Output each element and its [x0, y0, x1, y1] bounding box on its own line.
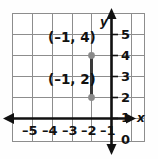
x-axis-name: x	[137, 112, 145, 124]
origin-label: 0	[121, 133, 130, 146]
y-tick-label-4: 4	[121, 49, 130, 62]
data-point-lower	[88, 94, 95, 101]
y-axis-name: y	[100, 16, 108, 28]
y-tick-label-3: 3	[121, 70, 130, 83]
annotation-point-upper: (–1, 4)	[48, 31, 96, 45]
data-point-upper	[88, 52, 95, 59]
x-axis-arrow-left	[3, 113, 14, 124]
y-axis-arrow-down	[107, 144, 117, 155]
y-tick-label-2: 2	[121, 91, 130, 104]
x-tick-label-minus-3: –3	[62, 124, 78, 137]
y-tick-label-5: 5	[121, 28, 130, 41]
x-tick-label-minus-4: –4	[42, 124, 58, 137]
x-tick-label-minus-1: –1	[100, 124, 116, 137]
y-tick-label-1: 1	[121, 111, 130, 124]
coordinate-plane-figure: (–1, 4) (–1, 2) 5 4 3 2 1 0 –5 –4 –3 –2 …	[0, 0, 158, 159]
x-tick-label-minus-2: –2	[81, 124, 97, 137]
x-tick-label-minus-5: –5	[22, 124, 38, 137]
annotation-point-lower: (–1, 2)	[48, 73, 96, 87]
